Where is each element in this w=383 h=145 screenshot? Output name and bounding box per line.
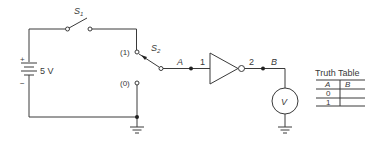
s2-pivot: [159, 67, 163, 71]
inverter-bubble: [239, 66, 245, 72]
node-a-label: A: [176, 57, 183, 67]
s1-blade: [69, 18, 87, 28]
s2-arrowhead: [141, 55, 147, 60]
s1-terminal-right: [88, 27, 92, 31]
truth-table-header-b: B: [345, 80, 351, 89]
inverter-pin-out-label: 2: [249, 57, 254, 67]
s2-position-0-label: (0): [120, 79, 130, 88]
circuit-diagram: S1 + − 5 V (1) S2 (0) A 1 2 B V Truth Ta…: [0, 0, 383, 145]
s2-position-1-label: (1): [120, 48, 130, 57]
truth-table-title: Truth Table: [315, 68, 360, 78]
wire-b: [245, 69, 286, 89]
junction-a: [189, 67, 193, 71]
wire-top-right: [92, 29, 137, 50]
battery-voltage-label: 5 V: [40, 66, 54, 76]
voltmeter-label: V: [281, 97, 288, 107]
s1-label: S1: [74, 6, 83, 17]
battery-plus-label: +: [20, 55, 25, 64]
junction-b: [261, 67, 265, 71]
node-b-label: B: [271, 57, 277, 67]
truth-table-row-1-a: 1: [326, 98, 331, 107]
junction-ground: [135, 115, 139, 119]
inverter-triangle: [210, 53, 238, 84]
battery-minus-label: −: [20, 79, 25, 88]
s2-label: S2: [151, 43, 161, 54]
truth-table-header-a: A: [324, 80, 330, 89]
truth-table-lines: [316, 80, 365, 106]
inverter-pin-in-label: 1: [200, 57, 205, 67]
s2-terminal-1: [135, 50, 139, 54]
s2-terminal-0: [135, 81, 139, 85]
